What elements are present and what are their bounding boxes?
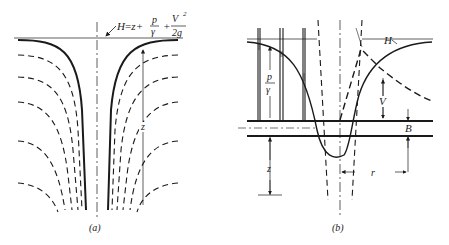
r-label: r <box>371 167 375 178</box>
z-label: z <box>266 163 271 174</box>
dashed-curves-left <box>18 55 82 212</box>
svg-text:γ: γ <box>151 26 156 37</box>
panel-a: z H=z+ p γ + V 2 2g (a) <box>14 10 187 234</box>
z-label: z <box>140 121 145 132</box>
b-label: B <box>405 122 412 134</box>
figure: z H=z+ p γ + V 2 2g (a) <box>0 0 449 245</box>
panel-b: H p γ V B z r (b) <box>238 20 433 234</box>
svg-text:H=z+: H=z+ <box>116 20 143 32</box>
p-label: p <box>266 71 272 82</box>
dashed-curves-right <box>112 55 178 212</box>
caption-b: (b) <box>332 222 344 234</box>
svg-text:+: + <box>163 20 170 32</box>
svg-text:V: V <box>172 13 180 24</box>
velocity-profile <box>340 49 432 120</box>
svg-text:p: p <box>151 14 157 25</box>
svg-text:2: 2 <box>183 10 187 18</box>
h-pointer-arrow <box>106 26 116 36</box>
h-label: H <box>383 34 393 46</box>
caption-a: (a) <box>89 222 101 234</box>
dashed-boundary-left <box>318 20 328 200</box>
dashed-boundary-right <box>352 20 362 200</box>
piezometric-curve <box>247 42 432 157</box>
svg-text:2g: 2g <box>172 27 182 38</box>
head-equation: H=z+ p γ + V 2 2g <box>116 10 187 38</box>
